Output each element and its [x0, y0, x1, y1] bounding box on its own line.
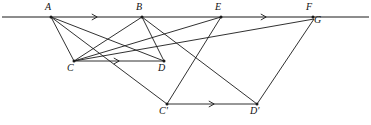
- vertex-label-G: G: [314, 15, 321, 25]
- vertex-label-A: A: [45, 2, 51, 12]
- segment-B-C: [74, 17, 142, 61]
- segment-B-Dp: [142, 17, 257, 104]
- segment-A-Cp: [51, 17, 167, 104]
- segment-G-Dp: [257, 19, 314, 104]
- segment-A-C: [51, 17, 74, 61]
- vertex-label-Cp: C': [159, 106, 168, 116]
- vertex-label-E: E: [215, 2, 221, 12]
- segment-B-D: [142, 17, 164, 61]
- vertex-label-D: D: [158, 63, 165, 73]
- geometry-figure: ABEFGCDC'D': [0, 0, 371, 125]
- vertex-label-Dp: D': [250, 106, 259, 116]
- vertex-label-F: F: [306, 2, 312, 12]
- vertex-dot-B: [141, 16, 144, 19]
- direction-arrowheads: [92, 14, 266, 107]
- segment-E-Cp: [167, 17, 221, 104]
- vertex-dot-A: [50, 16, 53, 19]
- vertex-label-C: C: [67, 63, 74, 73]
- vertex-dot-E: [220, 16, 223, 19]
- vertex-label-B: B: [136, 2, 142, 12]
